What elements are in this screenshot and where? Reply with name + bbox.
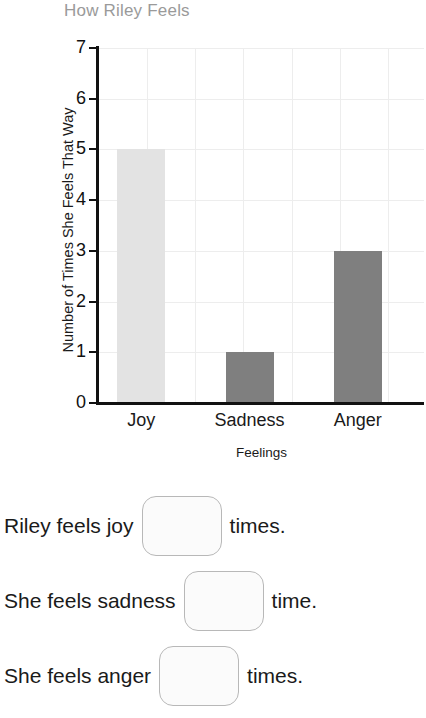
x-tick-label-joy: Joy	[81, 410, 201, 431]
question-row: Riley feels joytimes.	[0, 488, 426, 563]
y-tick-mark	[89, 47, 97, 49]
bar-sadness	[226, 352, 274, 403]
question-text-after: times.	[247, 664, 303, 688]
answer-box[interactable]	[184, 571, 264, 631]
answer-box[interactable]	[142, 496, 222, 556]
gridline-vertical	[292, 48, 293, 403]
y-tick-mark	[89, 301, 97, 303]
question-row: She feels sadnesstime.	[0, 563, 426, 638]
y-tick-label: 3	[46, 241, 86, 259]
y-tick-mark	[89, 148, 97, 150]
gridline-vertical	[243, 48, 244, 403]
answer-box[interactable]	[159, 646, 239, 706]
question-text-after: time.	[272, 589, 318, 613]
x-axis-title: Feelings	[99, 445, 424, 460]
question-text-before: She feels anger	[4, 664, 151, 688]
y-tick-mark	[89, 98, 97, 100]
y-tick-label: 7	[46, 38, 86, 56]
y-tick-label: 6	[46, 89, 86, 107]
y-tick-label: 4	[46, 190, 86, 208]
question-list: Riley feels joytimes.She feels sadnessti…	[0, 488, 426, 713]
question-text-before: She feels sadness	[4, 589, 176, 613]
question-row: She feels angertimes.	[0, 638, 426, 713]
plot-area	[99, 48, 424, 403]
chart-title: How Riley Feels	[64, 1, 190, 21]
y-tick-mark	[89, 199, 97, 201]
bar-joy	[117, 149, 165, 403]
question-text-before: Riley feels joy	[4, 514, 134, 538]
gridline-vertical	[388, 48, 389, 403]
y-tick-label: 5	[46, 139, 86, 157]
y-tick-label: 2	[46, 292, 86, 310]
y-tick-mark	[89, 250, 97, 252]
x-tick-label-sadness: Sadness	[190, 410, 310, 431]
y-tick-label: 1	[46, 342, 86, 360]
x-tick-label-anger: Anger	[298, 410, 418, 431]
y-tick-mark	[89, 351, 97, 353]
gridline-vertical	[195, 48, 196, 403]
bar-anger	[334, 251, 382, 403]
y-tick-label: 0	[46, 393, 86, 411]
y-tick-mark	[89, 402, 97, 404]
question-text-after: times.	[230, 514, 286, 538]
bar-chart: How Riley Feels Number of Times She Feel…	[0, 0, 426, 480]
x-axis-line	[96, 402, 424, 405]
